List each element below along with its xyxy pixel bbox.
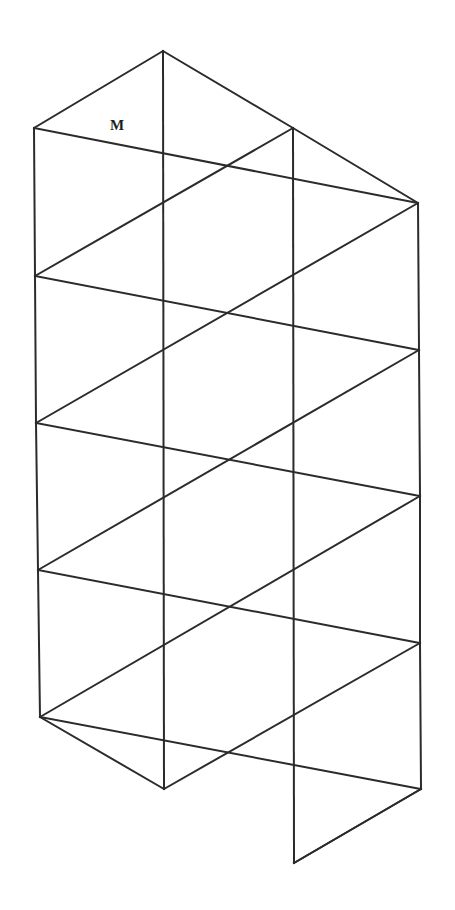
- face-label-m: M: [110, 117, 124, 133]
- figure-background: [0, 0, 455, 910]
- fold-line-right: [293, 128, 294, 863]
- fold-line-left: [163, 51, 164, 789]
- net-labels-group: M: [110, 117, 124, 133]
- polyhedron-net-figure: M: [0, 0, 455, 910]
